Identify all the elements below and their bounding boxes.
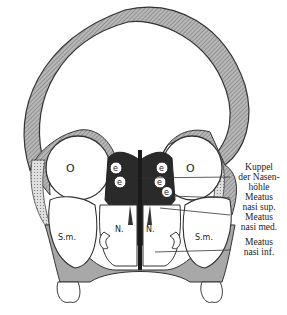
right-tooth xyxy=(201,282,223,302)
left-tooth xyxy=(57,282,80,302)
callout-meatus-inf: Meatus nasi inf. xyxy=(231,237,287,257)
skull-coronal-section: e e e e e O O N. N. S.m. S.m. xyxy=(0,0,287,315)
nasal-right-label: N. xyxy=(146,225,155,234)
ethmoid-label: e xyxy=(159,164,164,173)
ethmoid-label: e xyxy=(157,178,162,187)
nasal-septum xyxy=(138,150,142,270)
ethmoid-label: e xyxy=(117,178,122,187)
sinus-right-label: S.m. xyxy=(195,233,213,242)
orbit-right-label: O xyxy=(186,162,195,175)
ethmoid-label: e xyxy=(164,188,169,197)
orbit-left-label: O xyxy=(66,162,75,175)
left-orbit xyxy=(46,136,110,200)
callout-kuppel: Kuppel der Nasen- höhle xyxy=(231,162,287,192)
callout-meatus-med: Meatus nasi med. xyxy=(231,212,287,232)
nasal-left-label: N. xyxy=(115,225,124,234)
callout-meatus-sup: Meatus nasi sup. xyxy=(231,192,287,212)
sinus-left-label: S.m. xyxy=(58,233,76,242)
ethmoid-label: e xyxy=(113,164,118,173)
